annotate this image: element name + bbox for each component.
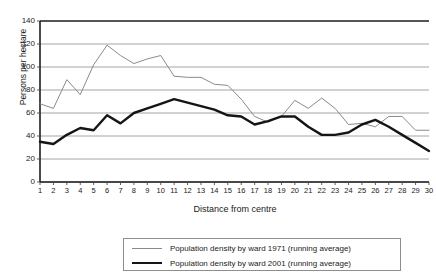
y-tick-label: 100 <box>7 62 35 71</box>
x-axis-title: Distance from centre <box>40 204 430 214</box>
series-line-2001 <box>40 99 429 151</box>
y-tick-label: 20 <box>7 154 35 163</box>
y-tick-label: 40 <box>7 131 35 140</box>
legend-item-2001: Population density by ward 2001 (running… <box>132 256 351 270</box>
y-tick-label: 140 <box>7 16 35 25</box>
legend-line-icon-2001 <box>132 262 162 264</box>
legend-item-1971: Population density by ward 1971 (running… <box>132 241 351 255</box>
plot-area <box>0 0 436 277</box>
chart-container: Persons per hectare 020406080100120140 1… <box>0 0 436 277</box>
y-tick-label: 80 <box>7 85 35 94</box>
legend-line-icon-1971 <box>132 248 162 249</box>
legend: Population density by ward 1971 (running… <box>123 238 401 271</box>
series-line-1971 <box>40 45 429 130</box>
legend-label-2001: Population density by ward 2001 (running… <box>170 259 351 268</box>
legend-label-1971: Population density by ward 1971 (running… <box>170 244 351 253</box>
y-tick-label: 60 <box>7 108 35 117</box>
x-tick-label: 30 <box>421 186 436 195</box>
y-tick-label: 120 <box>7 39 35 48</box>
y-tick-label: 0 <box>7 177 35 186</box>
